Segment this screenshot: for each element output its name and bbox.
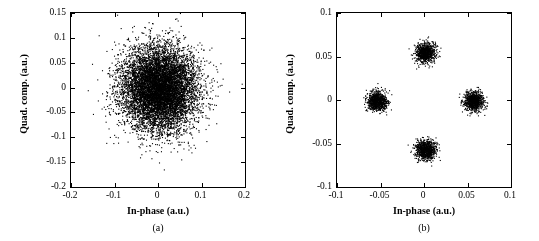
- x-tick: [115, 13, 116, 17]
- x-tick-label: -0.1: [106, 190, 121, 200]
- x-tick: [245, 183, 246, 187]
- y-tick: [507, 187, 511, 188]
- y-tick: [71, 162, 75, 163]
- y-tick: [507, 100, 511, 101]
- y-tick: [337, 144, 341, 145]
- y-tick-label: -0.1: [28, 131, 66, 141]
- y-tick-label: 0.05: [28, 57, 66, 67]
- y-tick-label: -0.1: [294, 181, 332, 191]
- y-tick: [507, 144, 511, 145]
- y-tick-label: 0.15: [28, 7, 66, 17]
- x-tick-label: 0.05: [458, 190, 475, 200]
- x-tick-label: 0.1: [504, 190, 516, 200]
- panel-label-a: (a): [138, 222, 178, 233]
- y-tick: [71, 187, 75, 188]
- scatter-canvas-b: [337, 13, 512, 188]
- panel-label-b: (b): [404, 222, 444, 233]
- x-axis-title-b: In-phase (a.u.): [344, 205, 504, 216]
- y-tick: [71, 38, 75, 39]
- y-tick-label: -0.05: [28, 106, 66, 116]
- y-tick: [241, 137, 245, 138]
- x-tick: [511, 13, 512, 17]
- x-tick-label: 0.1: [195, 190, 207, 200]
- x-tick-label: -0.1: [328, 190, 343, 200]
- y-tick: [337, 100, 341, 101]
- panel-a: Quad. comp. (a.u.) In-phase (a.u.) (a) -…: [0, 0, 270, 241]
- y-tick-label: -0.15: [28, 156, 66, 166]
- y-tick: [71, 112, 75, 113]
- x-tick: [202, 183, 203, 187]
- scatter-plot-b: [336, 12, 512, 188]
- y-tick: [241, 112, 245, 113]
- y-tick: [241, 162, 245, 163]
- y-tick-label: 0: [294, 94, 332, 104]
- y-tick: [71, 137, 75, 138]
- x-tick: [158, 183, 159, 187]
- x-tick: [158, 13, 159, 17]
- x-tick: [381, 183, 382, 187]
- x-tick: [381, 13, 382, 17]
- x-tick-label: 0.2: [238, 190, 250, 200]
- y-tick: [71, 88, 75, 89]
- x-tick: [424, 183, 425, 187]
- y-tick: [241, 13, 245, 14]
- y-tick: [241, 63, 245, 64]
- x-tick-label: 0: [155, 190, 160, 200]
- x-tick: [468, 13, 469, 17]
- y-tick: [337, 187, 341, 188]
- y-tick: [241, 38, 245, 39]
- y-tick: [71, 63, 75, 64]
- y-tick: [241, 187, 245, 188]
- y-tick: [337, 57, 341, 58]
- x-tick: [468, 183, 469, 187]
- y-tick-label: 0.05: [294, 51, 332, 61]
- x-tick: [202, 13, 203, 17]
- x-tick: [424, 13, 425, 17]
- y-tick: [241, 88, 245, 89]
- x-tick-label: -0.2: [62, 190, 77, 200]
- x-tick: [115, 183, 116, 187]
- x-tick: [511, 183, 512, 187]
- y-tick-label: 0.1: [294, 7, 332, 17]
- y-tick-label: -0.2: [28, 181, 66, 191]
- y-tick: [71, 13, 75, 14]
- x-axis-title-a: In-phase (a.u.): [78, 205, 238, 216]
- y-tick-label: -0.05: [294, 138, 332, 148]
- y-tick: [507, 57, 511, 58]
- panel-b: Quad. comp. (a.u.) In-phase (a.u.) (b) -…: [268, 0, 539, 241]
- scatter-canvas-a: [71, 13, 246, 188]
- y-tick-label: 0: [28, 82, 66, 92]
- y-tick-label: 0.1: [28, 32, 66, 42]
- y-tick: [337, 13, 341, 14]
- scatter-plot-a: [70, 12, 246, 188]
- y-tick: [507, 13, 511, 14]
- x-tick: [245, 13, 246, 17]
- x-tick-label: -0.05: [370, 190, 390, 200]
- figure-root: Quad. comp. (a.u.) In-phase (a.u.) (a) -…: [0, 0, 539, 241]
- x-tick-label: 0: [421, 190, 426, 200]
